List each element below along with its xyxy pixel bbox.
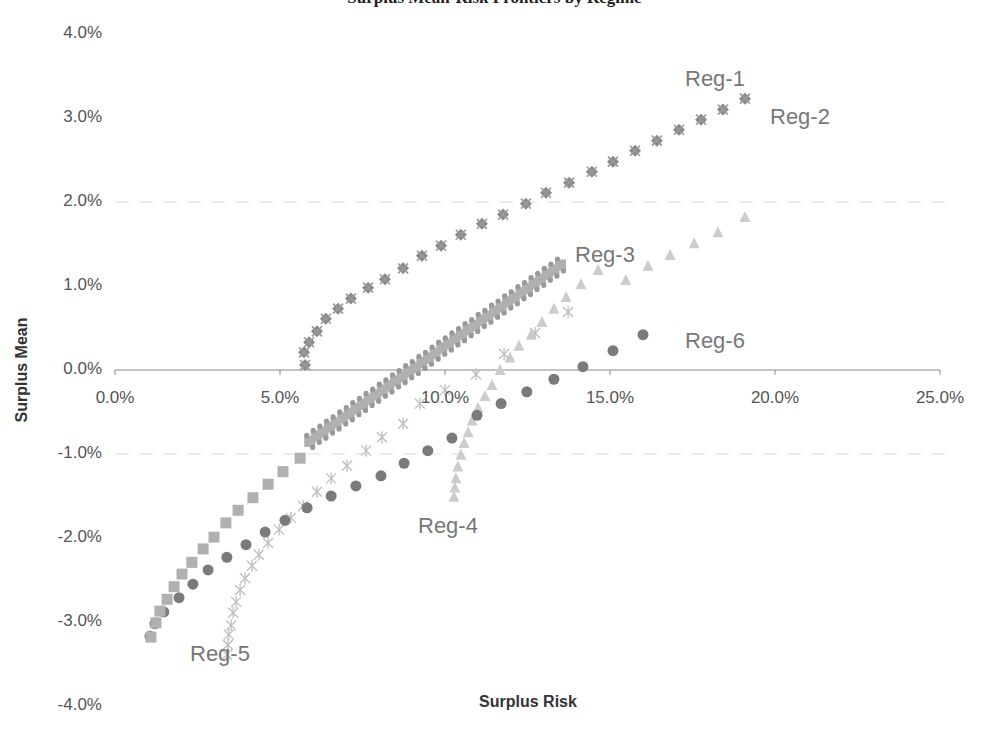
data-point [145, 632, 156, 643]
data-point [279, 515, 290, 526]
data-point [247, 492, 258, 503]
series-label-reg-1: Reg-1 [685, 66, 745, 92]
y-tick-label: 0.0% [63, 359, 102, 379]
y-tick-label: -1.0% [58, 443, 102, 463]
series-label-reg-2: Reg-2 [770, 104, 830, 130]
data-point [235, 584, 245, 596]
data-point [228, 607, 238, 619]
data-point [302, 502, 313, 513]
data-point [446, 433, 457, 444]
series-label-reg-4: Reg-4 [418, 513, 478, 539]
x-tick-label: 0.0% [96, 388, 135, 408]
data-point [176, 569, 187, 580]
x-axis-label: Surplus Risk [479, 693, 577, 711]
data-point [689, 237, 700, 248]
data-point [247, 560, 257, 572]
data-point [607, 345, 618, 356]
data-point [361, 445, 371, 457]
y-tick-label: -3.0% [58, 611, 102, 631]
data-point [452, 461, 463, 472]
data-point [561, 291, 572, 302]
plot-area [0, 0, 989, 734]
y-tick-label: 1.0% [63, 275, 102, 295]
data-point [712, 226, 723, 237]
x-tick-label: 25.0% [916, 388, 964, 408]
data-point [342, 460, 352, 472]
data-point [295, 453, 306, 464]
series-reg-5 [222, 306, 573, 661]
data-point [198, 543, 209, 554]
data-point [274, 524, 284, 536]
data-point [399, 458, 410, 469]
data-point [471, 368, 481, 380]
data-point [174, 592, 185, 603]
data-point [642, 260, 653, 271]
data-point [450, 472, 461, 483]
y-tick-label: -4.0% [58, 695, 102, 715]
x-tick-label: 10.0% [421, 388, 469, 408]
data-point [422, 445, 433, 456]
data-point [548, 374, 559, 385]
x-tick-label: 15.0% [586, 388, 634, 408]
data-point [472, 410, 483, 421]
data-point [162, 594, 173, 605]
x-tick-label: 5.0% [261, 388, 300, 408]
data-point [150, 617, 161, 628]
data-point [486, 379, 497, 390]
data-point [254, 549, 264, 561]
y-tick-label: 3.0% [63, 107, 102, 127]
x-tick-label: 20.0% [751, 388, 799, 408]
y-tick-label: -2.0% [58, 527, 102, 547]
series-label-reg-6: Reg-6 [685, 328, 745, 354]
data-point [537, 316, 548, 327]
data-point [577, 361, 588, 372]
data-point [203, 564, 214, 575]
data-point [209, 532, 220, 543]
data-point [350, 480, 361, 491]
data-point [638, 329, 649, 340]
data-point [277, 466, 288, 477]
data-point [154, 606, 165, 617]
y-tick-label: 2.0% [63, 191, 102, 211]
series-reg-3 [145, 256, 566, 642]
series-reg-2 [299, 94, 750, 370]
data-point [231, 596, 241, 608]
data-point [186, 557, 197, 568]
data-point [241, 539, 252, 550]
data-point [665, 249, 676, 260]
data-point [620, 274, 631, 285]
y-tick-label: 4.0% [63, 23, 102, 43]
data-point [326, 472, 336, 484]
data-point [575, 278, 586, 289]
data-point [233, 505, 244, 516]
data-point [263, 479, 274, 490]
data-point [260, 527, 271, 538]
data-point [187, 579, 198, 590]
data-point [499, 348, 509, 360]
data-point [563, 306, 573, 318]
data-point [513, 340, 524, 351]
series-label-reg-3: Reg-3 [575, 242, 635, 268]
data-point [169, 581, 180, 592]
data-point [240, 572, 250, 584]
data-point [496, 398, 507, 409]
data-point [326, 491, 337, 502]
y-axis-label: Surplus Mean [13, 318, 31, 423]
data-point [221, 552, 232, 563]
data-point [459, 437, 470, 448]
data-point [375, 470, 386, 481]
data-point [521, 386, 532, 397]
data-point [398, 418, 408, 430]
series-label-reg-5: Reg-5 [190, 641, 250, 667]
data-point [377, 431, 387, 443]
data-point [220, 517, 231, 528]
data-point [312, 486, 322, 498]
data-point [226, 619, 236, 631]
data-point [739, 211, 750, 222]
data-point [263, 537, 273, 549]
data-point [463, 426, 474, 437]
data-point [548, 303, 559, 314]
data-point [479, 390, 490, 401]
data-point [224, 629, 234, 641]
